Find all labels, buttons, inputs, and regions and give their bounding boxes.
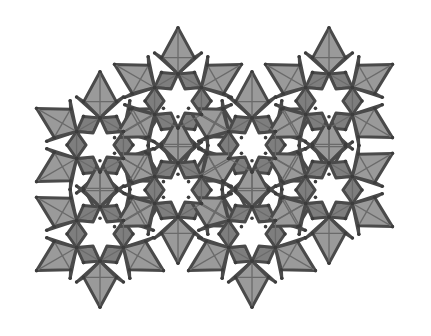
vertex-dot [68, 99, 72, 103]
vertex-dot [187, 269, 191, 273]
vertex-dot [234, 172, 238, 176]
vertex-dot [130, 107, 134, 111]
vertex-dot [234, 100, 238, 104]
vertex-dot [267, 189, 271, 193]
vertex-dot [283, 143, 287, 147]
vertex-dot [264, 136, 268, 140]
vertex-dot [344, 217, 348, 221]
vertex-dot [147, 135, 151, 139]
vertex-dot [197, 228, 201, 232]
vertex-dot [82, 204, 86, 208]
vertex-dot [221, 107, 225, 111]
vertex-dot [209, 99, 213, 103]
vertex-dot [281, 196, 285, 200]
vertex-dot [327, 126, 331, 130]
vertex-dot [227, 246, 231, 250]
vertex-dot [220, 188, 224, 192]
vertex-dot [351, 86, 355, 90]
vertex-dot [240, 152, 244, 156]
vertex-dot [304, 113, 308, 117]
vertex-dot [227, 95, 231, 99]
vertex-dot [357, 135, 361, 139]
vertex-dot [357, 144, 361, 148]
vertex-dot [227, 157, 231, 161]
vertex-dot [250, 305, 254, 309]
vertex-dot [176, 126, 180, 130]
vertex-dot [193, 232, 197, 236]
vertex-dot [162, 107, 166, 111]
vertex-dot [147, 63, 151, 67]
vertex-dot [220, 276, 224, 280]
vertex-dot [160, 217, 164, 221]
vertex-dot [146, 144, 150, 148]
vertex-dot [227, 130, 231, 134]
vertex-dot [113, 63, 117, 67]
vertex-dot [391, 136, 395, 140]
vertex-dot [311, 71, 315, 75]
vertex-dot [122, 219, 126, 223]
vertex-dot [200, 202, 204, 206]
vertex-dot [294, 188, 298, 192]
vertex-dot [234, 276, 238, 280]
vertex-dot [200, 175, 204, 179]
vertex-dot [200, 113, 204, 117]
vertex-dot [131, 143, 135, 147]
vertex-dot [200, 86, 204, 90]
vertex-dot [267, 276, 271, 280]
vertex-dot [304, 202, 308, 206]
vertex-dot [351, 175, 355, 179]
vertex-dot [274, 103, 278, 107]
vertex-dot [206, 232, 210, 236]
vertex-dot [344, 71, 348, 75]
vertex-dot [128, 276, 132, 280]
vertex-dot [311, 217, 315, 221]
vertex-dot [69, 107, 73, 111]
vertex-dot [227, 280, 231, 284]
vertex-dot [304, 175, 308, 179]
vertex-dot [176, 115, 180, 119]
vertex-dot [280, 99, 284, 103]
vertex-dot [82, 261, 86, 265]
vertex-dot [69, 268, 73, 272]
vertex-dot [151, 228, 155, 232]
vertex-dot [193, 128, 197, 132]
vertex-dot [281, 92, 285, 96]
vertex-dot [304, 147, 308, 151]
vertex-dot [193, 145, 197, 149]
vertex-dot [176, 161, 180, 165]
vertex-dot [344, 145, 348, 149]
vertex-dot [296, 240, 300, 244]
vertex-dot [122, 246, 126, 250]
vertex-dot [217, 232, 221, 236]
vertex-dot [351, 51, 355, 55]
vertex-dot [176, 215, 180, 219]
vertex-dot [380, 192, 384, 196]
vertex-dot [267, 261, 271, 265]
vertex-dot [250, 259, 254, 263]
vertex-dot [193, 71, 197, 75]
vertex-dot [314, 180, 318, 184]
vertex-dot [264, 63, 268, 67]
vertex-dot [222, 92, 226, 96]
vertex-dot [122, 157, 126, 161]
vertex-dot [143, 99, 147, 103]
vertex-dot [52, 240, 56, 244]
vertex-dot [280, 276, 284, 280]
vertex-dot [160, 160, 164, 164]
vertex-dot [267, 115, 271, 119]
vertex-dot [229, 192, 233, 196]
vertex-dot [311, 232, 315, 236]
vertex-dot [327, 26, 331, 30]
vertex-dot [304, 140, 308, 144]
vertex-dot [304, 236, 308, 240]
vertex-dot [250, 159, 254, 163]
vertex-dot [357, 232, 361, 236]
vertex-dot [122, 280, 126, 284]
vertex-dot [146, 232, 150, 236]
vertex-dot [357, 63, 361, 67]
vertex-dot [344, 232, 348, 236]
vertex-dot [298, 224, 302, 228]
vertex-dot [373, 92, 377, 96]
vertex-dot [234, 189, 238, 193]
vertex-dot [122, 130, 126, 134]
